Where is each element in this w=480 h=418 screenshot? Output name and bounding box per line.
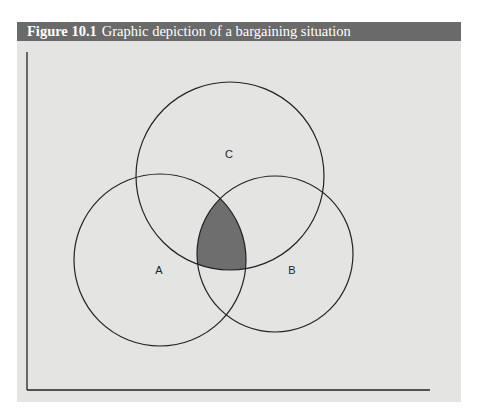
label-a: A	[155, 264, 163, 276]
label-b: B	[288, 264, 295, 276]
overlap-region	[136, 82, 324, 270]
label-c: C	[225, 148, 233, 160]
venn-diagram: C A B	[0, 0, 480, 418]
